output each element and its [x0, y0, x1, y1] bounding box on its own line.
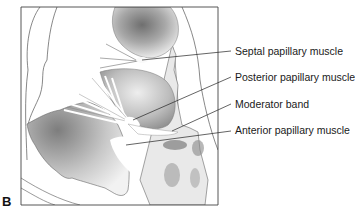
panel-letter: B: [2, 194, 11, 209]
label-septal-papillary-muscle: Septal papillary muscle: [235, 45, 343, 57]
drawing-area: [21, 7, 218, 205]
leader-line-moderator: [172, 104, 231, 131]
inner-wall-outline: [28, 7, 57, 125]
lower-curve-2: [21, 188, 55, 205]
label-anterior-papillary-muscle: Anterior papillary muscle: [235, 124, 350, 136]
label-posterior-papillary-muscle: Posterior papillary muscle: [235, 71, 355, 83]
label-moderator-band: Moderator band: [235, 98, 309, 110]
lower-curve-1: [21, 178, 80, 205]
